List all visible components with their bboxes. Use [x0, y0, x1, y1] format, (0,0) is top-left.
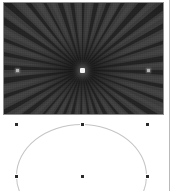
handle-bottom-right[interactable] — [145, 174, 150, 179]
handle-top-center[interactable] — [80, 122, 85, 127]
handle-top-right[interactable] — [145, 122, 150, 127]
radial-sunburst-image[interactable] — [3, 2, 164, 115]
left-hotspot-marker — [16, 69, 19, 72]
handle-bottom-left[interactable] — [14, 174, 19, 179]
handle-bottom-center[interactable] — [80, 174, 85, 179]
right-hotspot-marker — [147, 69, 150, 72]
handle-top-left[interactable] — [14, 122, 19, 127]
image-border — [3, 2, 164, 115]
slide-canvas[interactable] — [0, 0, 172, 191]
ellipse-shape[interactable] — [16, 124, 147, 191]
adjacent-panel-divider — [169, 0, 170, 191]
